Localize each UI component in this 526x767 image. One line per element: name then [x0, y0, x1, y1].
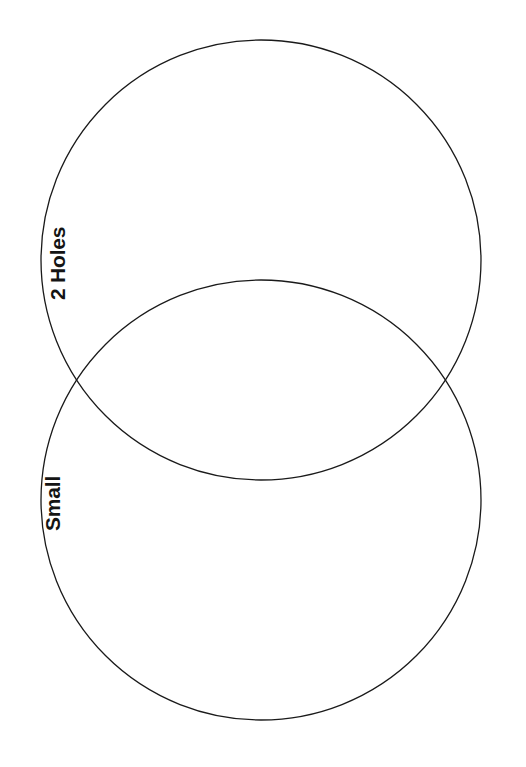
venn-label-small: Small [42, 476, 63, 531]
venn-label-2-holes: 2 Holes [47, 227, 68, 300]
venn-circle-2-holes[interactable] [41, 40, 481, 480]
worksheet-page: 2 Holes Small [0, 0, 526, 767]
venn-circle-small[interactable] [41, 280, 481, 720]
venn-diagram [0, 0, 526, 767]
